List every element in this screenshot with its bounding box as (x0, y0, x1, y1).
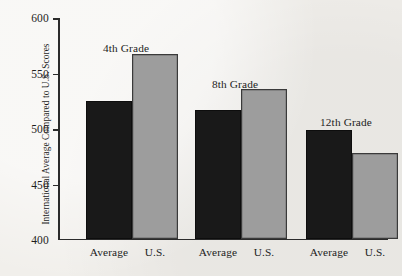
y-tick-550 (53, 74, 58, 76)
x-label-4th-grade-average: Average (90, 246, 128, 258)
group-label-4th-grade: 4th Grade (103, 42, 149, 54)
x-label-12th-grade-us: U.S. (365, 246, 386, 258)
y-tick-label-400: 400 (31, 234, 49, 246)
bar-4th-grade-average (86, 101, 132, 239)
group-label-12th-grade: 12th Grade (320, 116, 372, 128)
x-label-12th-grade-average: Average (310, 246, 348, 258)
x-axis-line (58, 239, 388, 241)
plot-area: International Average Compared to U.S. S… (58, 18, 388, 240)
bar-12th-grade-average (306, 130, 352, 239)
y-tick-600 (53, 18, 58, 20)
bar-8th-grade-average (195, 110, 241, 239)
y-tick-label-550: 550 (31, 68, 49, 80)
x-label-4th-grade-us: U.S. (145, 246, 166, 258)
y-tick-450 (53, 185, 58, 187)
y-tick-label-600: 600 (31, 12, 49, 24)
y-axis-line (58, 18, 60, 240)
bar-12th-grade-us (352, 153, 398, 239)
x-label-8th-grade-us: U.S. (254, 246, 275, 258)
y-tick-label-450: 450 (31, 179, 49, 191)
y-tick-500 (53, 129, 58, 131)
x-label-8th-grade-average: Average (199, 246, 237, 258)
y-tick-label-500: 500 (31, 123, 49, 135)
bar-chart: International Average Compared to U.S. S… (0, 0, 402, 276)
bar-4th-grade-us (132, 54, 178, 238)
bar-8th-grade-us (241, 89, 287, 239)
